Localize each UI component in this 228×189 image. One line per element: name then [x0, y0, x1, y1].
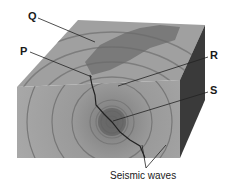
block-diagram	[0, 0, 228, 189]
caption-seismic-waves: Seismic waves	[110, 170, 176, 181]
label-s: S	[210, 84, 217, 96]
label-q: Q	[28, 10, 37, 22]
label-r: R	[210, 49, 218, 61]
label-p: P	[20, 45, 27, 57]
